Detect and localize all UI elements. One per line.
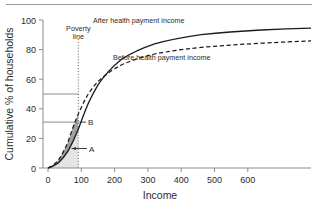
y-tick-label-80: 80 xyxy=(26,45,36,55)
annotation-after-health-payment-income: After health payment income xyxy=(93,16,185,25)
x-tick-label-400: 400 xyxy=(174,175,189,185)
y-tick-label-100: 100 xyxy=(21,16,36,26)
annotation-before-health-payment-income: Before health payment income xyxy=(113,53,211,62)
x-tick-label-600: 600 xyxy=(240,175,255,185)
y-tick-label-60: 60 xyxy=(26,75,36,85)
y-tick-label-0: 0 xyxy=(31,164,36,174)
y-axis-title: Cumulative % of households xyxy=(3,27,15,160)
series-before-health-payment-income xyxy=(48,28,311,168)
label-region-b: B xyxy=(88,118,93,127)
label-region-a: A xyxy=(89,145,95,154)
figure-container: 100 80 60 40 20 0 0 100 200 300 400 500 … xyxy=(0,0,319,207)
x-tick-label-0: 0 xyxy=(45,175,50,185)
x-tick-label-300: 300 xyxy=(140,175,155,185)
x-tick-label-500: 500 xyxy=(207,175,222,185)
y-tick-label-40: 40 xyxy=(26,104,36,114)
x-tick-label-200: 200 xyxy=(107,175,122,185)
annotation-poverty-line-2: line xyxy=(73,32,84,41)
x-tick-label-100: 100 xyxy=(74,175,89,185)
y-tick-label-20: 20 xyxy=(26,134,36,144)
x-axis-title: Income xyxy=(143,189,178,201)
cumulative-income-distribution-chart: 100 80 60 40 20 0 0 100 200 300 400 500 … xyxy=(0,0,319,207)
